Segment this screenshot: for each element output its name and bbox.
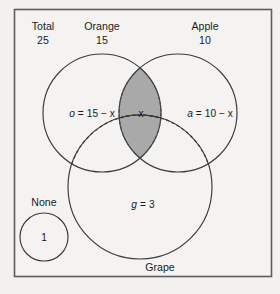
grape-set-name: Grape: [145, 261, 175, 273]
grape-only-equals: =: [140, 199, 146, 210]
apple-only-equals: =: [196, 108, 202, 119]
orange-only-expr: 15 − x: [87, 108, 115, 119]
orange-only-var: o: [69, 108, 75, 119]
apple-value: 10: [199, 34, 211, 46]
apple-label: Apple: [191, 20, 218, 32]
orange-label: Orange: [84, 20, 119, 32]
intersection-label: x: [138, 108, 143, 119]
venn-diagram-svg: Total 25 Orange 15 Apple 10: [0, 0, 280, 294]
total-label: Total: [32, 20, 54, 32]
total-value: 25: [37, 34, 49, 46]
grape-only-var: g: [131, 199, 137, 210]
orange-only-equals: =: [78, 108, 84, 119]
apple-only-var: a: [187, 108, 193, 119]
apple-only-expr: 10 − x: [205, 108, 233, 119]
none-label: None: [31, 196, 56, 208]
none-value: 1: [41, 232, 47, 243]
venn-diagram-figure: Total 25 Orange 15 Apple 10: [0, 0, 280, 294]
grape-only-label: g=3: [131, 199, 155, 210]
grape-only-expr: 3: [149, 199, 155, 210]
orange-value: 15: [96, 34, 108, 46]
